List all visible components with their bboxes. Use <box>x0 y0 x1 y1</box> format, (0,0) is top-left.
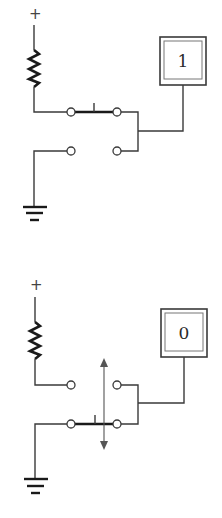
output-value: 0 <box>179 323 190 343</box>
contact-upper-right <box>113 381 121 389</box>
resistor-icon <box>29 50 39 87</box>
contact-lower-left <box>67 147 75 155</box>
output-wire <box>138 85 183 131</box>
contact-upper-right <box>113 108 121 116</box>
contact-upper-left <box>67 381 75 389</box>
ground-icon <box>23 207 47 220</box>
output-value: 1 <box>178 51 189 71</box>
resistor-to-switch-wire <box>35 359 67 385</box>
ground-wire <box>34 151 67 207</box>
ground-wire <box>35 424 67 479</box>
output-display: 0 <box>161 309 207 357</box>
ground-icon <box>24 479 48 493</box>
output-display: 1 <box>160 37 206 85</box>
circuit-diagrams: + 1 + <box>0 0 222 518</box>
double-arrow-icon <box>100 358 108 450</box>
resistor-icon <box>30 322 40 359</box>
contact-lower-right <box>113 420 121 428</box>
resistor-to-switch-wire <box>34 87 67 112</box>
circuit-bottom: + 0 <box>24 276 207 493</box>
contact-lower-right <box>113 147 121 155</box>
output-wire <box>138 357 184 403</box>
supply-plus-symbol: + <box>29 5 42 23</box>
right-contacts-bus <box>121 385 138 424</box>
circuit-top: + 1 <box>23 5 206 220</box>
supply-plus-symbol: + <box>30 276 43 294</box>
contact-upper-left <box>67 108 75 116</box>
right-contacts-bus <box>121 112 138 151</box>
contact-lower-left <box>67 420 75 428</box>
